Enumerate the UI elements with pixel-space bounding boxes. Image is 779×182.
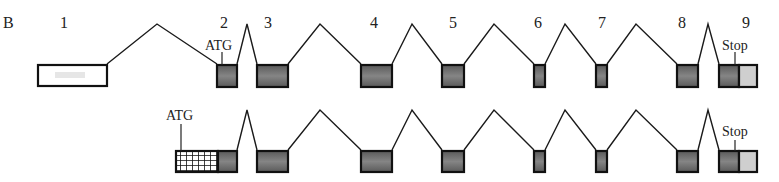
exon-number-5: 5 — [449, 14, 457, 31]
exon-number-7: 7 — [598, 14, 606, 31]
intron-6 — [545, 24, 596, 64]
intron-2b — [237, 110, 257, 150]
exon-number-6: 6 — [534, 14, 542, 31]
transcript-row-1: ATG Stop — [38, 24, 757, 87]
exon-number-1: 1 — [60, 14, 68, 31]
stop-codon-label-2: Stop — [722, 124, 748, 139]
exon-number-3: 3 — [264, 14, 272, 31]
stop-codon-label-1: Stop — [722, 38, 748, 53]
exon-9b-utr — [739, 151, 757, 172]
intron-8 — [698, 24, 719, 64]
intron-5b — [464, 110, 534, 150]
exon-5 — [442, 65, 464, 87]
intron-5 — [464, 24, 534, 64]
exon-7 — [596, 65, 607, 87]
exon-9-coding — [719, 65, 739, 87]
exon-number-8: 8 — [678, 14, 686, 31]
exon-3 — [257, 65, 288, 87]
exon-number-2: 2 — [220, 14, 228, 31]
intron-2 — [237, 24, 257, 64]
intron-7b — [607, 110, 677, 150]
intron-8b — [698, 110, 719, 150]
panel-label: B — [3, 14, 14, 31]
transcript-row-2: ATG Stop — [166, 108, 757, 172]
intron-7 — [607, 24, 677, 64]
intron-4b — [392, 110, 442, 150]
exon-9-utr — [739, 65, 757, 87]
start-codon-label-1: ATG — [205, 38, 232, 53]
exon-4 — [361, 65, 392, 87]
exon-2b — [218, 151, 237, 172]
gene-structure-diagram: B 1 2 3 4 5 6 7 8 9 ATG Stop — [0, 0, 779, 182]
exon-1-blur — [55, 72, 85, 78]
exon-8 — [677, 65, 698, 87]
intron-1 — [107, 24, 217, 64]
exon-6b — [534, 151, 545, 172]
exon-8b — [677, 151, 698, 172]
exon-9b-coding — [719, 151, 739, 172]
intron-3 — [288, 24, 361, 64]
novel-exon-grid — [176, 151, 218, 172]
exon-3b — [257, 151, 288, 172]
intron-3b — [288, 110, 361, 150]
exon-number-4: 4 — [370, 14, 378, 31]
exon-2 — [217, 65, 237, 87]
start-codon-label-2: ATG — [166, 108, 193, 123]
exon-6 — [534, 65, 545, 87]
intron-4 — [392, 24, 442, 64]
exon-7b — [596, 151, 607, 172]
exon-number-9: 9 — [742, 14, 750, 31]
exon-4b — [361, 151, 392, 172]
intron-6b — [545, 110, 596, 150]
exon-5b — [442, 151, 464, 172]
